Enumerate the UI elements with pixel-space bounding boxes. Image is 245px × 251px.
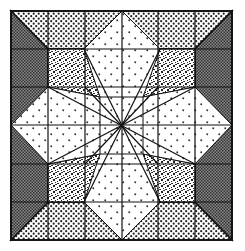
quilt-block (0, 0, 245, 251)
